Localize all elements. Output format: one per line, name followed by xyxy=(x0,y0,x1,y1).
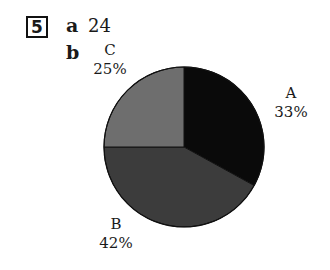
label-b: B 42% xyxy=(91,215,141,253)
label-c-name: C xyxy=(85,41,135,60)
label-a-name: A xyxy=(266,84,316,103)
label-a-pct: 33% xyxy=(266,103,316,122)
pie-chart xyxy=(0,0,330,270)
label-c-pct: 25% xyxy=(85,60,135,79)
label-c: C 25% xyxy=(85,41,135,79)
label-b-name: B xyxy=(91,215,141,234)
pie-slice-c xyxy=(104,67,184,147)
label-b-pct: 42% xyxy=(91,234,141,253)
label-a: A 33% xyxy=(266,84,316,122)
